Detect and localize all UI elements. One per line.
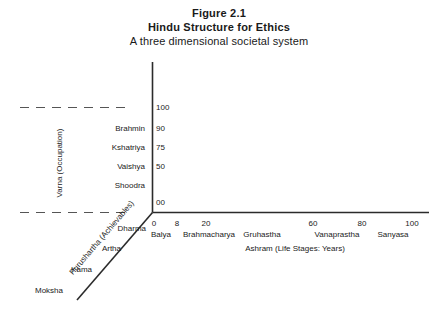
- ashram-tick-value-80: 80: [358, 219, 367, 229]
- varna-category-kshatriya: Kshatriya: [89, 143, 145, 153]
- purushartha-category-dharma: Dharma: [118, 224, 146, 234]
- varna-axis-title-bold: Varna: [55, 177, 64, 198]
- ashram-stage-gruhastha: Gruhastha: [243, 230, 280, 240]
- ashram-tick-value-0: 0: [152, 219, 156, 229]
- purushartha-category-artha: Artha: [102, 244, 121, 254]
- varna-tick-value-90: 90: [156, 124, 178, 134]
- varna-tick-value-75: 75: [156, 143, 178, 153]
- varna-axis-title: Varna (Occupation): [54, 118, 66, 208]
- ashram-tick-value-20: 20: [202, 219, 211, 229]
- purushartha-category-moksha: Moksha: [35, 286, 63, 296]
- ashram-stage-balya: Balya: [151, 230, 171, 240]
- ashram-stage-sanyasa: Sanyasa: [377, 230, 408, 240]
- ashram-axis-title-bold: Ashram: [245, 244, 273, 253]
- varna-tick-value-00: 00: [156, 198, 178, 208]
- ashram-stage-brahmacharya: Brahmacharya: [183, 230, 235, 240]
- ashram-axis-title: Ashram (Life Stages: Years): [155, 243, 435, 254]
- figure-container: Figure 2.1 Hindu Structure for Ethics A …: [0, 0, 438, 325]
- varna-category-vaishya: Vaishya: [89, 162, 145, 172]
- varna-tick-value-50: 50: [156, 162, 178, 172]
- ashram-tick-value-8: 8: [175, 219, 179, 229]
- ashram-tick-value-100: 100: [405, 219, 418, 229]
- ashram-stage-vanaprastha: Vanaprastha: [315, 230, 360, 240]
- ashram-axis-title-rest: (Life Stages: Years): [275, 244, 345, 253]
- varna-axis-title-rest: (Occupation): [55, 129, 64, 175]
- ashram-tick-value-60: 60: [309, 219, 318, 229]
- varna-tick-value-100: 100: [156, 103, 178, 113]
- varna-category-brahmin: Brahmin: [89, 124, 145, 134]
